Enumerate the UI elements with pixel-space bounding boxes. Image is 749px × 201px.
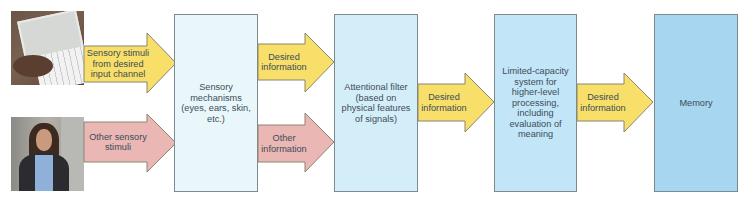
desired-info-label-1: Desired information bbox=[258, 44, 310, 80]
phone-typing-photo bbox=[11, 11, 84, 85]
attentional-filter-box: Attentional filter (based on physical fe… bbox=[334, 14, 418, 192]
input-desired-label: Sensory stimuli from desired input chann… bbox=[86, 46, 150, 82]
thumb bbox=[13, 55, 53, 77]
shirt bbox=[35, 155, 53, 191]
desired-info-label-2: Desired information bbox=[418, 84, 470, 121]
sensory-mechanisms-box: Sensory mechanisms (eyes, ears, skin, et… bbox=[174, 14, 258, 192]
desired-info-label-3: Desired information bbox=[577, 84, 629, 121]
other-info-label: Other information bbox=[258, 125, 310, 162]
input-other-label: Other sensory stimuli bbox=[86, 122, 150, 162]
limited-capacity-box: Limited-capacity system for higher-level… bbox=[494, 14, 577, 192]
memory-box: Memory bbox=[654, 14, 738, 192]
woman-walking-photo bbox=[11, 117, 84, 191]
face bbox=[36, 129, 52, 151]
